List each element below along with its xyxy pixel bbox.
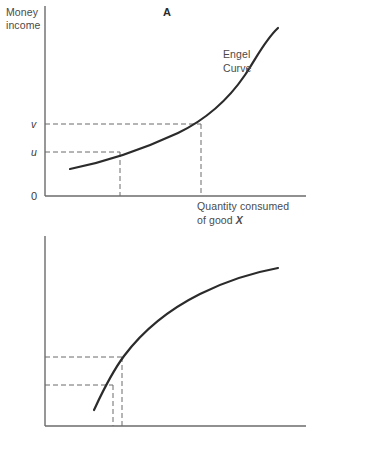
engel-curve-path [94,268,278,410]
engel-curve-panel-b: Money income B v u 0 Engel Curve Quantit… [0,230,374,459]
x-axis-label-line1: Quantity consumed [197,200,289,212]
y-axis-label-line2: income [6,19,40,31]
y-axis-label-line1: Money [6,6,38,18]
panel-b-plot [0,230,374,459]
panel-a-plot [0,0,374,230]
curve-annotation-line1: Engel [223,48,250,60]
engel-curve-panel-a: Money income A v u 0 Engel Curve Quantit… [0,0,374,230]
y-axis-label: Money income [6,6,40,32]
y-tick-label-u: u [31,146,37,159]
curve-annotation: Engel Curve [223,47,252,75]
x-axis-label-variable: X [236,214,243,226]
curve-annotation-line2: Curve [223,62,252,74]
origin-label: 0 [31,190,37,203]
x-axis-label-line2: of good [197,214,236,226]
panel-title-a: A [163,6,171,19]
x-axis-label: Quantity consumed of good X [197,199,289,227]
y-tick-label-v: v [31,118,36,131]
